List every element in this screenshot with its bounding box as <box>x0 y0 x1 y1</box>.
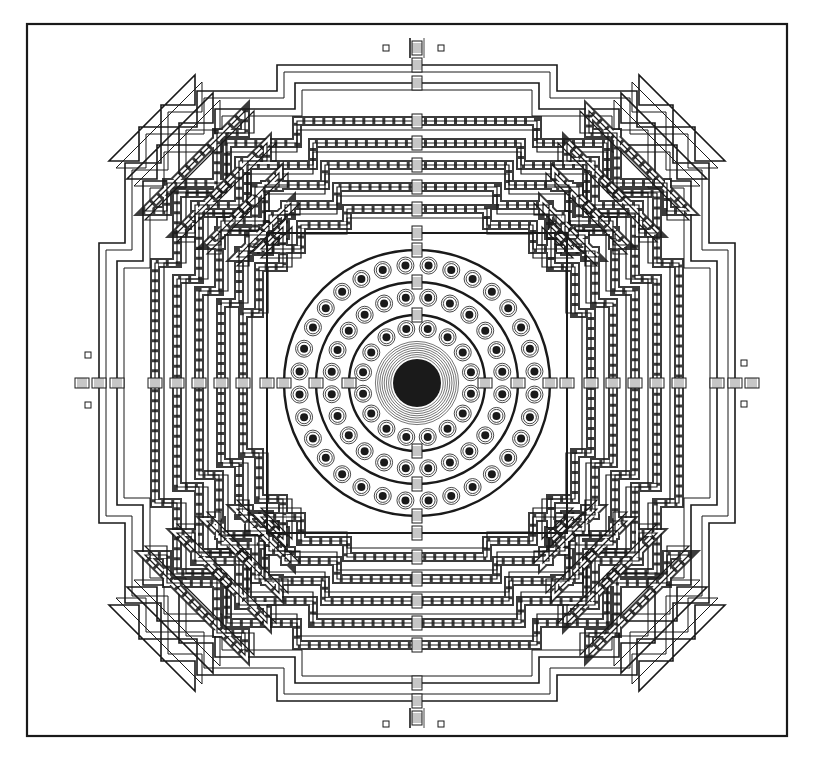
stupa-icon <box>443 487 460 504</box>
stupa-icon <box>461 306 478 323</box>
stupa-icon <box>441 295 458 312</box>
stupa-icon <box>398 321 415 338</box>
stupa-icon <box>477 322 494 339</box>
marker-square <box>383 721 389 727</box>
stupa-icon <box>439 329 456 346</box>
marker-square <box>85 352 91 358</box>
stupa-icon <box>296 409 313 426</box>
stupa-icon <box>323 386 340 403</box>
marker-square <box>741 360 747 366</box>
stupa-icon <box>397 460 414 477</box>
stupa-icon <box>296 340 313 357</box>
marker-square <box>85 402 91 408</box>
stupa-icon <box>494 363 511 380</box>
stupa-icon <box>462 364 479 381</box>
stupa-icon <box>291 363 308 380</box>
stupa-icon <box>363 405 380 422</box>
stupa-icon <box>494 386 511 403</box>
main-stupa <box>375 341 458 424</box>
stupa-icon <box>353 270 370 287</box>
marker-square <box>741 401 747 407</box>
stupa-icon <box>439 420 456 437</box>
stupa-icon <box>374 487 391 504</box>
stupa-icon <box>340 322 357 339</box>
stupa-icon <box>462 385 479 402</box>
stupa-icon <box>334 466 351 483</box>
stupa-icon <box>477 427 494 444</box>
stupa-icon <box>363 344 380 361</box>
stupa-icon <box>461 443 478 460</box>
stupa-icon <box>304 319 321 336</box>
stupa-icon <box>521 340 538 357</box>
stupa-icon <box>454 405 471 422</box>
stupa-icon <box>420 289 437 306</box>
marker-square <box>438 721 444 727</box>
marker-square <box>383 45 389 51</box>
stupa-icon <box>329 342 346 359</box>
stupa-icon <box>500 449 517 466</box>
stupa-icon <box>355 385 372 402</box>
stupa-icon <box>526 386 543 403</box>
stupa-icon <box>500 300 517 317</box>
stupa-icon <box>376 454 393 471</box>
stupa-icon <box>334 283 351 300</box>
stupa-icon <box>483 283 500 300</box>
stupa-icon <box>488 407 505 424</box>
marker-square <box>438 45 444 51</box>
stupa-icon <box>464 479 481 496</box>
stupa-icon <box>441 454 458 471</box>
stupa-icon <box>317 300 334 317</box>
stupa-icon <box>356 443 373 460</box>
stupa-icon <box>513 430 530 447</box>
stupa-icon <box>329 407 346 424</box>
stupa-icon <box>420 257 437 274</box>
main-stupa-dome <box>393 359 441 407</box>
stupa-icon <box>355 364 372 381</box>
stupa-icon <box>374 262 391 279</box>
stupa-icon <box>513 319 530 336</box>
stupa-icon <box>464 270 481 287</box>
stupa-icon <box>378 420 395 437</box>
temple-plan-drawing <box>0 0 818 780</box>
stupa-icon <box>454 344 471 361</box>
stupa-icon <box>488 342 505 359</box>
stupa-icon <box>419 428 436 445</box>
stupa-icon <box>353 479 370 496</box>
stupa-icon <box>526 363 543 380</box>
stupa-icon <box>420 460 437 477</box>
stupa-icon <box>317 449 334 466</box>
stupa-icon <box>397 289 414 306</box>
stupa-icon <box>397 257 414 274</box>
stupa-icon <box>397 492 414 509</box>
stupa-icon <box>420 492 437 509</box>
stupa-icon <box>376 295 393 312</box>
stupa-icon <box>340 427 357 444</box>
stupa-icon <box>356 306 373 323</box>
stupa-icon <box>291 386 308 403</box>
stupa-icon <box>323 363 340 380</box>
stupa-icon <box>304 430 321 447</box>
stupa-icon <box>398 428 415 445</box>
stupa-icon <box>483 466 500 483</box>
stupa-icon <box>521 409 538 426</box>
stupa-icon <box>378 329 395 346</box>
stupa-icon <box>443 262 460 279</box>
stupa-icon <box>419 321 436 338</box>
